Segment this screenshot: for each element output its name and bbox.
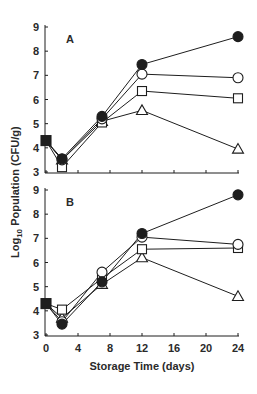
- y-axis-title-suffix: Population (CFU/g): [9, 126, 21, 229]
- y-tick-label: 3: [33, 166, 39, 178]
- open-square-marker-icon: [138, 245, 147, 254]
- open-triangle-marker-icon: [137, 105, 148, 115]
- x-tick-label: 20: [200, 342, 212, 354]
- series-markers: [41, 190, 244, 329]
- series-lines: [46, 37, 238, 168]
- x-tick-label: 24: [232, 342, 245, 354]
- panel-a: 3456789A: [33, 21, 244, 178]
- open-triangle-marker-icon: [233, 144, 244, 154]
- filled-circle-marker-icon: [97, 277, 107, 287]
- y-tick-label: 4: [33, 305, 40, 317]
- x-tick-label: 16: [168, 342, 180, 354]
- y-tick-label: 3: [33, 329, 39, 341]
- chart: 3456789A 345678904812162024B Log10 Popul…: [0, 0, 257, 394]
- x-tick-label: 0: [43, 342, 49, 354]
- y-tick-label: 6: [33, 94, 39, 106]
- y-tick-label: 5: [33, 281, 39, 293]
- panel-label: A: [66, 33, 74, 45]
- y-tick-label: 9: [33, 21, 39, 33]
- y-tick-label: 5: [33, 118, 39, 130]
- y-tick-label: 6: [33, 257, 39, 269]
- y-axis-title-prefix: Log: [9, 238, 21, 258]
- filled-circle-marker-icon: [57, 319, 67, 329]
- y-tick-label: 8: [33, 45, 39, 57]
- open-square-marker-icon: [58, 305, 67, 314]
- y-tick-label: 7: [33, 232, 39, 244]
- open-circle-marker-icon: [233, 239, 243, 249]
- initial-filled-square-marker-icon: [41, 299, 51, 309]
- open-circle-marker-icon: [233, 73, 243, 83]
- open-circle-marker-icon: [137, 69, 147, 79]
- y-tick-label: 7: [33, 69, 39, 81]
- filled-circle-marker-icon: [97, 111, 107, 121]
- x-tick-label: 8: [107, 342, 113, 354]
- y-tick-label: 9: [33, 184, 39, 196]
- y-tick-label: 8: [33, 208, 39, 220]
- panel-label: B: [66, 196, 74, 208]
- open-square-marker-icon: [138, 87, 147, 96]
- filled-circle-marker-icon: [57, 154, 67, 164]
- x-tick-label: 4: [75, 342, 82, 354]
- x-axis-title: Storage Time (days): [90, 360, 195, 372]
- initial-filled-square-marker-icon: [41, 136, 51, 146]
- filled-circle-marker-icon: [137, 229, 147, 239]
- open-square-marker-icon: [234, 94, 243, 103]
- y-axis-title: Log10 Population (CFU/g): [9, 126, 24, 258]
- series-line-open-square: [46, 91, 238, 167]
- x-tick-label: 12: [136, 342, 148, 354]
- series-line-filled-circle: [46, 37, 238, 159]
- panel-b: 345678904812162024B: [33, 184, 245, 354]
- filled-circle-marker-icon: [137, 59, 147, 69]
- open-circle-marker-icon: [97, 267, 107, 277]
- svg-text:Log10 Population (CFU/g): Log10 Population (CFU/g): [9, 126, 24, 258]
- y-tick-label: 4: [33, 142, 40, 154]
- filled-circle-marker-icon: [233, 32, 243, 42]
- filled-circle-marker-icon: [233, 190, 243, 200]
- series-line-open-triangle: [46, 258, 238, 318]
- open-triangle-marker-icon: [233, 291, 244, 301]
